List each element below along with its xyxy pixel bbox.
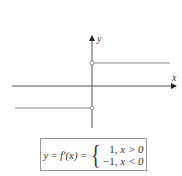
formula-lhs: y = f′(x) = <box>43 149 86 161</box>
case-positive: 1, x > 0 <box>103 143 144 155</box>
formula-box: y = f′(x) = { 1, x > 0 −1, x < 0 <box>40 138 147 171</box>
x-axis-label: x <box>171 72 177 83</box>
case-negative: −1, x < 0 <box>103 155 144 167</box>
y-axis-label: y <box>96 33 102 44</box>
open-circle-upper <box>90 61 94 65</box>
brace-symbol: { <box>91 141 100 169</box>
open-circle-lower <box>90 106 94 110</box>
formula-cases: 1, x > 0 −1, x < 0 <box>103 143 144 167</box>
